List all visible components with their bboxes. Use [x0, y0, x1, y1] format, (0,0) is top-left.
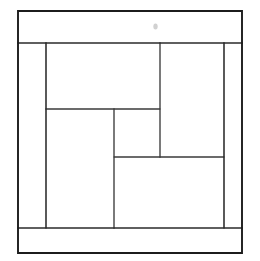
- top-band-region[interactable]: [18, 11, 242, 43]
- region-top-inner[interactable]: [46, 43, 160, 109]
- region-center-small[interactable]: [114, 109, 160, 157]
- region-bottom-wide[interactable]: [114, 157, 224, 228]
- right-column-region[interactable]: [224, 43, 242, 228]
- diagram-canvas: Rectangle Partition Diagram Black-and-wh…: [0, 0, 260, 261]
- region-left-tall[interactable]: [46, 109, 114, 228]
- rectangle-partition-figure: [0, 0, 260, 261]
- bottom-band-region[interactable]: [18, 228, 242, 253]
- region-right-tall[interactable]: [160, 43, 224, 157]
- left-column-region[interactable]: [18, 43, 46, 228]
- region-hit-targets[interactable]: [18, 11, 242, 253]
